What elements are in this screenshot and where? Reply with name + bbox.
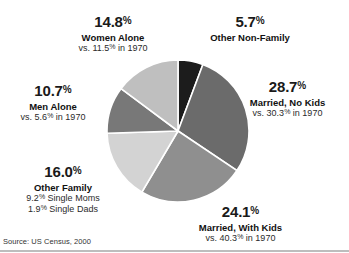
slice-value-married-with-kids: 24.1% <box>163 203 318 221</box>
slice-breakdown-single-dads: 1.9% Single Dads <box>0 204 127 215</box>
chart-figure: 14.8% Women Alone vs. 11.5% in 1970 5.7%… <box>0 0 349 253</box>
percent-symbol: % <box>237 233 243 240</box>
slice-comparison-men-alone: vs. 5.6% in 1970 <box>0 112 108 123</box>
slice-name-other-non-family: Other Non-Family <box>186 32 314 43</box>
percent-symbol: % <box>39 193 45 200</box>
percent-symbol: % <box>256 15 265 26</box>
slice-breakdown-single-moms: 9.2% Single Moms <box>0 193 127 204</box>
slice-name-married-no-kids: Married, No Kids <box>226 97 349 108</box>
percent-symbol: % <box>73 165 82 176</box>
slice-label-other-family: 16.0% Other Family 9.2% Single Moms 1.9%… <box>0 163 127 215</box>
percent-symbol: % <box>47 112 53 119</box>
slice-comparison-married-with-kids: vs. 40.3% in 1970 <box>163 233 318 244</box>
slice-value-men-alone: 10.7% <box>0 82 108 100</box>
percent-symbol: % <box>297 80 306 91</box>
percent-symbol: % <box>250 205 259 216</box>
slice-name-other-family: Other Family <box>0 182 127 193</box>
bottom-divider <box>0 250 349 252</box>
slice-value-women-alone: 14.8% <box>47 13 179 31</box>
slice-name-married-with-kids: Married, With Kids <box>163 222 318 233</box>
cropped-headline-remnant <box>0 0 349 4</box>
percent-symbol: % <box>284 108 290 115</box>
percent-symbol: % <box>109 43 115 50</box>
slice-value-other-non-family: 5.7% <box>186 13 314 31</box>
slice-value-other-family: 16.0% <box>0 163 127 181</box>
slice-label-married-no-kids: 28.7% Married, No Kids vs. 30.3% in 1970 <box>226 78 349 119</box>
slice-label-men-alone: 10.7% Men Alone vs. 5.6% in 1970 <box>0 82 108 123</box>
percent-symbol: % <box>123 15 132 26</box>
slice-label-married-with-kids: 24.1% Married, With Kids vs. 40.3% in 19… <box>163 203 318 244</box>
slice-value-married-no-kids: 28.7% <box>226 78 349 96</box>
slice-comparison-women-alone: vs. 11.5% in 1970 <box>47 43 179 54</box>
percent-symbol: % <box>63 84 72 95</box>
source-note: Source: US Census, 2000 <box>3 237 91 246</box>
slice-name-men-alone: Men Alone <box>0 101 108 112</box>
slice-name-women-alone: Women Alone <box>47 32 179 43</box>
percent-symbol: % <box>41 204 47 211</box>
slice-label-women-alone: 14.8% Women Alone vs. 11.5% in 1970 <box>47 13 179 54</box>
slice-comparison-married-no-kids: vs. 30.3% in 1970 <box>226 108 349 119</box>
slice-label-other-non-family: 5.7% Other Non-Family <box>186 13 314 43</box>
